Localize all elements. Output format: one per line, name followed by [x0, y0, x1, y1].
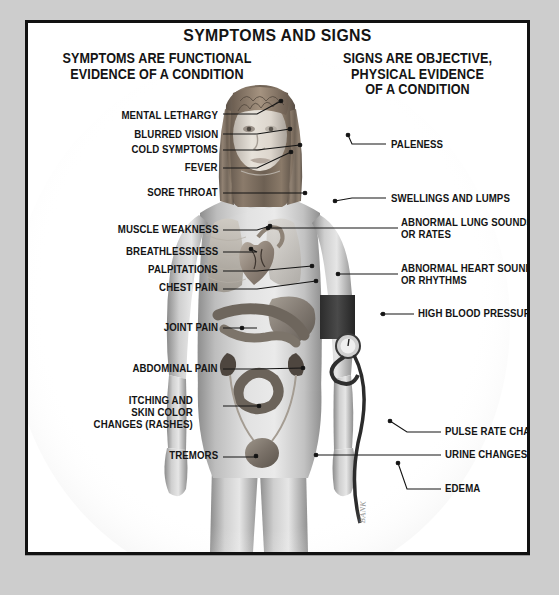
leader-endpoint [346, 133, 350, 137]
leader-lines [28, 23, 527, 552]
leader-line [223, 101, 281, 114]
artist-signature: BANK [358, 501, 368, 524]
leader-line [223, 266, 312, 271]
leader-endpoint [288, 127, 292, 131]
sign-label-0: PALENESS [391, 139, 443, 151]
leader-line [223, 281, 316, 289]
leader-endpoint [314, 279, 318, 283]
leader-line [398, 463, 441, 489]
leader-endpoint [298, 143, 302, 147]
leader-endpoint [381, 312, 385, 316]
leader-endpoint [257, 404, 261, 408]
symptom-label-0: MENTAL LETHARGY [121, 110, 218, 122]
leader-line [348, 135, 386, 144]
leader-endpoint [240, 326, 244, 330]
leader-endpoint [289, 150, 293, 154]
sign-label-2: ABNORMAL LUNG SOUNDSOR RATES [401, 217, 530, 241]
symptom-label-3: FEVER [185, 162, 218, 174]
symptom-label-7: PALPITATIONS [148, 264, 218, 276]
sign-label-5: PULSE RATE CHANGES [445, 426, 530, 438]
leader-endpoint [254, 454, 258, 458]
leader-endpoint [396, 461, 400, 465]
leader-line [390, 421, 441, 432]
leader-endpoint [249, 247, 253, 251]
heading-symptoms: SYMPTOMS ARE FUNCTIONALEVIDENCE OF A CON… [45, 51, 270, 82]
symptom-label-2: COLD SYMPTOMS [132, 144, 218, 156]
leader-line [223, 145, 300, 150]
symptom-label-6: BREATHLESSNESS [126, 246, 218, 258]
sign-label-6: URINE CHANGES [445, 449, 527, 461]
symptom-label-10: ABDOMINAL PAIN [133, 363, 218, 375]
leader-endpoint [314, 453, 318, 457]
leader-endpoint [279, 99, 283, 103]
leader-endpoint [310, 264, 314, 268]
leader-endpoint [303, 191, 307, 195]
leader-endpoint [388, 419, 392, 423]
leader-line [223, 152, 291, 168]
leader-line [223, 368, 303, 369]
symptom-label-11: ITCHING ANDSKIN COLORCHANGES (RASHES) [94, 395, 193, 430]
symptom-label-4: SORE THROAT [147, 187, 218, 199]
leader-endpoint [336, 272, 340, 276]
symptom-label-5: MUSCLE WEAKNESS [117, 224, 218, 236]
symptom-label-8: CHEST PAIN [159, 282, 218, 294]
leader-endpoint [301, 366, 305, 370]
sign-label-1: SWELLINGS AND LUMPS [391, 193, 510, 205]
heading-signs: SIGNS ARE OBJECTIVE,PHYSICAL EVIDENCEOF … [321, 51, 515, 98]
poster: SYMPTOMS AND SIGNS SYMPTOMS ARE FUNCTION… [0, 0, 559, 595]
leader-line [223, 456, 257, 457]
sign-label-4: HIGH BLOOD PRESSURE [418, 308, 530, 320]
leader-endpoint [266, 226, 270, 230]
symptom-label-1: BLURRED VISION [134, 129, 218, 141]
symptom-label-12: TREMORS [169, 450, 218, 462]
leader-endpoint [333, 199, 337, 203]
leader-line [223, 226, 270, 230]
symptom-label-9: JOINT PAIN [164, 322, 218, 334]
leader-line [335, 198, 386, 201]
sign-label-7: EDEMA [445, 483, 480, 495]
page-title: SYMPTOMS AND SIGNS [45, 26, 509, 45]
leader-line [223, 129, 290, 134]
sign-label-3: ABNORMAL HEART SOUNDSOR RHYTHMS [401, 263, 530, 287]
framed-plate: SYMPTOMS AND SIGNS SYMPTOMS ARE FUNCTION… [25, 20, 530, 555]
